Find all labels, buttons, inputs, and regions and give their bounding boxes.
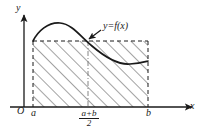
x-axis-label: x xyxy=(190,101,194,111)
midpoint-fraction: a+b 2 xyxy=(79,109,98,129)
origin-label: O xyxy=(17,106,24,116)
math-figure: y x O a b y=f(x) a+b 2 xyxy=(0,0,203,135)
hatched-region xyxy=(33,41,148,107)
curve-label-pointer-arrow xyxy=(89,30,101,39)
y-axis-label: y xyxy=(16,3,20,13)
curve-equation-label: y=f(x) xyxy=(103,21,128,31)
x-tick-label-midpoint: a+b 2 xyxy=(68,109,110,129)
x-tick-label-b: b xyxy=(146,108,151,118)
x-tick-label-a: a xyxy=(31,108,36,118)
midpoint-denominator: 2 xyxy=(79,119,98,128)
